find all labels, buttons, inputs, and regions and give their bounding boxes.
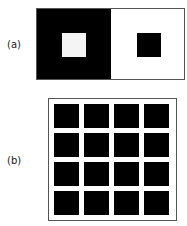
grid-container <box>54 104 169 215</box>
grid-cell <box>54 162 79 186</box>
grid-cell <box>84 191 109 215</box>
figure-a-black-inner-square <box>137 33 161 57</box>
grid-cell <box>84 104 109 128</box>
grid-cell <box>114 162 139 186</box>
figure-a-white-inner-square <box>62 33 86 57</box>
grid-cell <box>54 104 79 128</box>
grid-cell <box>114 191 139 215</box>
grid-cell <box>54 191 79 215</box>
grid-cell <box>144 133 169 157</box>
grid-cell <box>144 162 169 186</box>
figure-b-label: (b) <box>7 156 21 166</box>
grid-cell <box>114 104 139 128</box>
figure-a-contrast-panel <box>36 8 185 80</box>
grid-cell <box>144 104 169 128</box>
grid-cell <box>144 191 169 215</box>
grid-cell <box>84 162 109 186</box>
grid-cell <box>54 133 79 157</box>
figure-b-hermann-grid <box>48 98 177 221</box>
figure-a-label: (a) <box>7 40 21 50</box>
grid-cell <box>84 133 109 157</box>
figure-a-black-half <box>37 9 111 79</box>
figure-a-white-half <box>111 9 184 79</box>
grid-cell <box>114 133 139 157</box>
